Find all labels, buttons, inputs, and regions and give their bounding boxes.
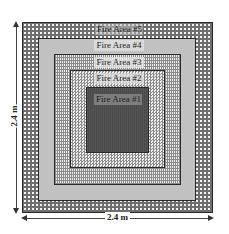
arrow-right-icon: [208, 215, 214, 221]
fire-area-1-label: Fire Area #1: [94, 94, 142, 105]
fire-area-5-label: Fire Area #5: [95, 24, 143, 35]
arrow-left-icon: [21, 215, 27, 221]
arrow-up-icon: [13, 21, 19, 27]
fire-area-4-label: Fire Area #4: [94, 40, 144, 51]
width-dimension-label: 2.4 m: [105, 212, 130, 222]
height-dimension-label: 2.4 m: [9, 105, 19, 128]
fire-area-2-label: Fire Area #2: [94, 73, 144, 84]
fire-area-3-label: Fire Area #3: [94, 57, 144, 68]
arrow-down-icon: [13, 208, 19, 214]
